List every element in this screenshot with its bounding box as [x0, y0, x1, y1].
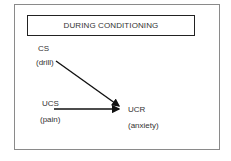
arrows-layer: [0, 0, 231, 161]
cs-to-ucr-arrow: [56, 61, 119, 106]
